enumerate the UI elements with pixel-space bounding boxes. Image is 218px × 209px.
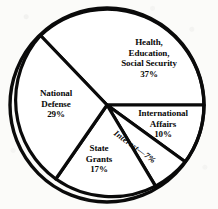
- slice-label-line: Grants: [72, 154, 126, 165]
- slice-label-state-grants: State Grants 17%: [72, 143, 126, 175]
- slice-label-line: Social Security: [112, 58, 186, 69]
- slice-value-label: 29%: [26, 109, 86, 120]
- slice-label-line: Defense: [26, 99, 86, 110]
- slice-label-international-affairs: International Affairs 10%: [132, 108, 194, 140]
- slice-label-line: Health,: [112, 37, 186, 48]
- slice-label-line: State: [72, 143, 126, 154]
- slice-label-health-education-social-security: Health, Education, Social Security 37%: [112, 37, 186, 79]
- pie-chart-figure: Health, Education, Social Security 37% N…: [0, 0, 218, 209]
- slice-label-national-defense: National Defense 29%: [26, 88, 86, 120]
- slice-label-line: Affairs: [132, 119, 194, 130]
- slice-value-label: 37%: [112, 69, 186, 80]
- slice-value-label: 17%: [72, 164, 126, 175]
- slice-label-line: Education,: [112, 48, 186, 59]
- slice-value-label: 10%: [132, 129, 194, 140]
- slice-label-line: International: [132, 108, 194, 119]
- slice-label-line: National: [26, 88, 86, 99]
